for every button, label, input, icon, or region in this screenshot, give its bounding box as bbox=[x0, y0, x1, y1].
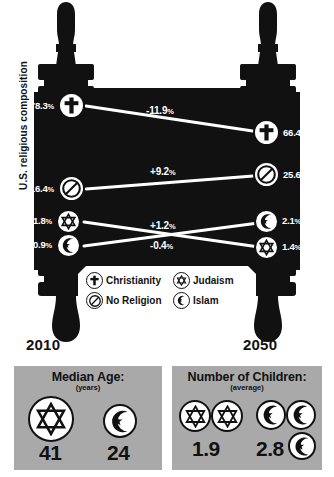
crescent-icon bbox=[256, 400, 286, 430]
value-noreligion-2010: 16.4% bbox=[6, 183, 54, 194]
children-islam-value: 2.8 bbox=[256, 438, 284, 459]
median-age-judaism-value: 41 bbox=[39, 442, 61, 463]
crescent-icon bbox=[288, 432, 316, 460]
star-of-david-icon bbox=[173, 272, 190, 289]
star-of-david-icon bbox=[179, 400, 211, 432]
star-of-david-icon bbox=[258, 239, 275, 256]
panel-subtitle: (average) bbox=[172, 384, 322, 392]
panel-median-age: Median Age: (years) 41 24 bbox=[14, 366, 162, 470]
value-christianity-2050: 66.4% bbox=[283, 127, 307, 138]
legend-label: Christianity bbox=[106, 275, 161, 286]
stats-panels: Median Age: (years) 41 24 bbox=[0, 366, 334, 474]
crescent-icon bbox=[173, 292, 190, 309]
panel-body: 41 24 bbox=[14, 392, 162, 464]
infographic-root: U.S. religious composition bbox=[0, 0, 334, 477]
marker-noreligion-2010[interactable] bbox=[58, 175, 85, 202]
panel-body: 1.9 bbox=[172, 392, 322, 464]
cross-icon bbox=[259, 124, 274, 141]
no-religion-icon bbox=[257, 165, 276, 184]
panel-subtitle: (years) bbox=[14, 384, 162, 392]
legend-label: Judaism bbox=[193, 275, 234, 286]
legend-label: Islam bbox=[193, 295, 219, 306]
crescent-icon bbox=[258, 213, 275, 230]
value-noreligion-2050: 25.6% bbox=[283, 169, 307, 180]
marker-islam-2010[interactable] bbox=[56, 233, 81, 258]
star-of-david-icon bbox=[211, 400, 243, 432]
legend-item-christianity[interactable]: Christianity bbox=[86, 272, 169, 289]
crescent-icon bbox=[286, 400, 316, 430]
crescent-icon bbox=[60, 237, 77, 254]
value-judaism-2010: 1.8% bbox=[6, 215, 52, 226]
change-label-judaism: -0.4% bbox=[150, 240, 173, 251]
value-islam-2010: 0.9% bbox=[6, 239, 52, 250]
crescent-icon bbox=[103, 404, 137, 438]
year-label-2010: 2010 bbox=[26, 336, 60, 353]
legend: Christianity Judaism N bbox=[86, 272, 256, 309]
cross-icon bbox=[86, 272, 103, 289]
star-of-david-icon bbox=[28, 396, 74, 442]
marker-noreligion-2050[interactable] bbox=[253, 161, 280, 188]
marker-christianity-2010[interactable] bbox=[58, 92, 85, 119]
value-judaism-2050: 1.4% bbox=[282, 241, 301, 252]
legend-label: No Religion bbox=[106, 295, 162, 306]
marker-islam-2050[interactable] bbox=[254, 209, 279, 234]
marker-judaism-2050[interactable] bbox=[254, 235, 279, 260]
star-of-david-icon bbox=[60, 213, 77, 230]
median-age-islam-value: 24 bbox=[107, 442, 129, 463]
value-christianity-2010: 78.3% bbox=[6, 100, 54, 111]
year-label-2050: 2050 bbox=[243, 336, 277, 353]
value-islam-2050: 2.1% bbox=[282, 215, 301, 226]
no-religion-icon bbox=[62, 179, 81, 198]
marker-christianity-2050[interactable] bbox=[253, 119, 280, 146]
cross-icon bbox=[64, 97, 79, 114]
change-label-islam: +1.2% bbox=[150, 220, 175, 231]
torah-scroll-chart: 78.3% 16.4% 1.8% bbox=[0, 0, 334, 350]
legend-item-no-religion[interactable]: No Religion bbox=[86, 292, 169, 309]
no-religion-icon bbox=[86, 292, 103, 309]
legend-item-islam[interactable]: Islam bbox=[173, 292, 256, 309]
change-label-noreligion: +9.2% bbox=[150, 166, 175, 177]
children-judaism-value: 1.9 bbox=[192, 438, 220, 459]
legend-item-judaism[interactable]: Judaism bbox=[173, 272, 256, 289]
change-label-christianity: -11.9% bbox=[146, 105, 174, 116]
marker-judaism-2010[interactable] bbox=[56, 209, 81, 234]
panel-number-of-children: Number of Children: (average) 1.9 bbox=[172, 366, 322, 470]
